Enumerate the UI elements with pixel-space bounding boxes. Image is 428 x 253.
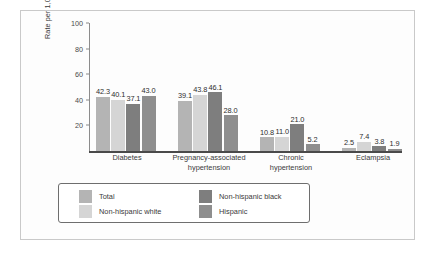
bar: 11.0 bbox=[275, 137, 289, 151]
bar-value-label: 43.0 bbox=[142, 86, 156, 95]
bar: 37.1 bbox=[126, 104, 140, 151]
x-axis-category-label: Eclampsia bbox=[330, 153, 416, 163]
legend-label: Non-hispanic white bbox=[99, 207, 161, 216]
bar: 28.0 bbox=[224, 115, 238, 151]
bar-value-label: 39.1 bbox=[178, 91, 192, 100]
bar-group: 42.340.137.143.0Diabetes bbox=[96, 21, 158, 151]
x-axis-category-line: Chronic bbox=[248, 153, 334, 163]
legend-swatch bbox=[199, 190, 212, 203]
bar-group: 39.143.846.128.0Pregnancy-associatedhype… bbox=[178, 21, 240, 151]
legend-label: Hispanic bbox=[219, 207, 247, 216]
bar-value-label: 2.5 bbox=[344, 138, 354, 147]
bar-value-label: 1.9 bbox=[390, 139, 400, 148]
bar: 43.0 bbox=[142, 96, 156, 151]
bar: 43.8 bbox=[193, 95, 207, 151]
plot-area: Rate per 1,000 live births 20406080100 4… bbox=[59, 21, 404, 166]
chart-legend: TotalNon-hispanic whiteNon-hispanic blac… bbox=[58, 183, 310, 223]
bar-value-label: 43.8 bbox=[193, 85, 207, 94]
bar-group: 10.811.021.05.2Chronichypertension bbox=[260, 21, 322, 151]
bar-value-label: 28.0 bbox=[224, 106, 238, 115]
y-tick-label: 40 bbox=[75, 95, 83, 104]
y-axis-ticks: 20406080100 bbox=[59, 21, 89, 151]
x-axis-category-label: Pregnancy-associatedhypertension bbox=[166, 153, 252, 172]
bar-value-label: 40.1 bbox=[111, 90, 125, 99]
legend-item[interactable]: Total bbox=[79, 190, 115, 203]
x-axis-category-line: Eclampsia bbox=[330, 153, 416, 163]
legend-label: Total bbox=[99, 192, 115, 201]
bar-value-label: 46.1 bbox=[208, 83, 222, 92]
bar-value-label: 11.0 bbox=[275, 127, 288, 136]
bar: 40.1 bbox=[111, 100, 125, 151]
bar: 1.9 bbox=[388, 149, 402, 151]
bar-value-label: 5.2 bbox=[308, 135, 318, 144]
y-axis-title: Rate per 1,000 live births bbox=[43, 0, 52, 39]
y-tick-label: 100 bbox=[71, 19, 83, 28]
bar-value-label: 37.1 bbox=[126, 94, 140, 103]
x-axis-category-line: hypertension bbox=[166, 163, 252, 173]
bar-groups: 42.340.137.143.0Diabetes39.143.846.128.0… bbox=[90, 21, 402, 151]
bar: 42.3 bbox=[96, 97, 110, 151]
legend-swatch bbox=[79, 205, 92, 218]
x-axis-category-label: Diabetes bbox=[84, 153, 170, 163]
legend-item[interactable]: Hispanic bbox=[199, 205, 247, 218]
legend-label: Non-hispanic black bbox=[219, 192, 281, 201]
bar-value-label: 42.3 bbox=[96, 87, 110, 96]
legend-item[interactable]: Non-hispanic black bbox=[199, 190, 281, 203]
bar-group: 2.57.43.81.9Eclampsia bbox=[342, 21, 404, 151]
bar: 21.0 bbox=[290, 124, 304, 151]
x-axis-category-line: Diabetes bbox=[84, 153, 170, 163]
bar-value-label: 10.8 bbox=[260, 128, 274, 137]
y-tick-label: 80 bbox=[75, 44, 83, 53]
x-axis-category-line: hypertension bbox=[248, 163, 334, 173]
y-tick-label: 20 bbox=[75, 121, 83, 130]
bar: 46.1 bbox=[208, 92, 222, 151]
bar: 10.8 bbox=[260, 137, 274, 151]
bar: 2.5 bbox=[342, 148, 356, 151]
bar: 3.8 bbox=[372, 146, 386, 151]
x-axis-category-line: Pregnancy-associated bbox=[166, 153, 252, 163]
legend-item[interactable]: Non-hispanic white bbox=[79, 205, 161, 218]
x-axis-category-label: Chronichypertension bbox=[248, 153, 334, 172]
legend-swatch bbox=[199, 205, 212, 218]
bar: 7.4 bbox=[357, 142, 371, 151]
y-tick-label: 60 bbox=[75, 70, 83, 79]
bar: 5.2 bbox=[306, 144, 320, 151]
bar-value-label: 3.8 bbox=[374, 137, 384, 146]
legend-swatch bbox=[79, 190, 92, 203]
bar-value-label: 7.4 bbox=[359, 132, 369, 141]
chart-figure: Rate per 1,000 live births 20406080100 4… bbox=[20, 10, 415, 240]
bar-value-label: 21.0 bbox=[290, 115, 304, 124]
bar: 39.1 bbox=[178, 101, 192, 151]
